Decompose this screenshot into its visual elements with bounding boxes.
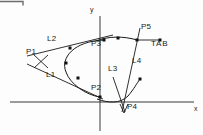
line-label-L4: L4	[132, 57, 141, 65]
x-axis-label: x	[194, 105, 198, 112]
diagram-vector-layer	[0, 0, 203, 135]
diagram-canvas: y x P1 P2 P3 P4 P5 L1 L2 L3 L4 TAB	[0, 0, 203, 135]
point-marker-P1	[34, 55, 48, 68]
point-label-P4: P4	[127, 103, 137, 111]
point-label-P2: P2	[91, 84, 101, 92]
y-axis-label: y	[90, 6, 94, 13]
tab-label: TAB	[151, 40, 168, 48]
axis-group	[10, 16, 194, 131]
point-label-P1: P1	[26, 48, 36, 56]
parametric-curve	[65, 37, 140, 102]
line-label-L1: L1	[46, 71, 55, 79]
line-label-L2: L2	[47, 35, 56, 43]
point-label-P5: P5	[141, 23, 151, 31]
partial-border-fragment	[0, 2, 23, 6]
point-label-P3: P3	[91, 40, 101, 48]
line-label-L3: L3	[108, 65, 117, 73]
